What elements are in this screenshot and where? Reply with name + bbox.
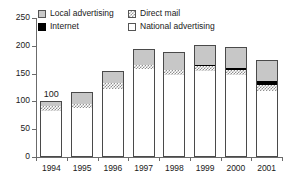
- bar-2000: [225, 18, 247, 157]
- y-axis-tick-label: 250: [16, 13, 30, 22]
- bar-segment-national-advertising: [225, 75, 247, 157]
- y-axis-tick-label: 200: [16, 41, 30, 50]
- x-axis-label-1997: 1997: [128, 163, 159, 173]
- bar-segment-local-advertising: [163, 52, 185, 69]
- bar-segment-internet: [256, 81, 278, 85]
- x-axis-tick: [128, 157, 129, 161]
- x-axis-tick: [282, 157, 283, 161]
- bar-segment-local-advertising: [194, 45, 216, 65]
- bar-segment-local-advertising: [133, 49, 155, 65]
- x-axis-tick: [159, 157, 160, 161]
- legend-item-direct-mail: Direct mail: [128, 9, 180, 18]
- x-axis-label-2000: 2000: [221, 163, 252, 173]
- bar-1994: 100: [40, 18, 62, 157]
- y-axis-tick: [32, 129, 36, 130]
- x-axis-label-1999: 1999: [190, 163, 221, 173]
- y-axis-tick-label: 100: [16, 96, 30, 105]
- bar-2001: [256, 18, 278, 157]
- legend-label-direct-mail: Direct mail: [140, 9, 180, 18]
- bar-segment-direct-mail: [40, 106, 62, 112]
- bar-segment-national-advertising: [163, 75, 185, 157]
- x-axis-label-1995: 1995: [67, 163, 98, 173]
- legend-label-local-advertising: Local advertising: [50, 9, 114, 18]
- bar-segment-local-advertising: [71, 92, 93, 104]
- bar-segment-local-advertising: [256, 60, 278, 81]
- bar-segment-direct-mail: [225, 70, 247, 74]
- bar-value-label: 100: [44, 89, 59, 99]
- bar-segment-internet: [194, 65, 216, 67]
- bar-1995: [71, 18, 93, 157]
- bar-segment-direct-mail: [163, 70, 185, 76]
- x-axis-tick: [36, 157, 37, 161]
- bar-segment-national-advertising: [256, 91, 278, 157]
- bar-segment-direct-mail: [256, 85, 278, 91]
- x-axis-label-1998: 1998: [159, 163, 190, 173]
- bar-segment-local-advertising: [40, 101, 62, 105]
- x-axis-label-1994: 1994: [36, 163, 67, 173]
- y-axis-tick: [32, 101, 36, 102]
- legend-swatch-local-advertising-icon: [38, 10, 46, 18]
- y-axis-tick: [32, 18, 36, 19]
- y-axis-tick-label: 150: [16, 69, 30, 78]
- bar-segment-direct-mail: [71, 104, 93, 108]
- bar-segment-national-advertising: [133, 69, 155, 157]
- x-axis-label-1996: 1996: [98, 163, 129, 173]
- bar-segment-national-advertising: [102, 89, 124, 157]
- x-axis-tick: [221, 157, 222, 161]
- bar-segment-internet: [225, 68, 247, 70]
- x-axis-tick: [251, 157, 252, 161]
- bar-segment-direct-mail: [102, 83, 124, 89]
- bar-segment-national-advertising: [40, 111, 62, 157]
- y-axis-tick-label: 50: [21, 124, 30, 133]
- bar-segment-local-advertising: [102, 71, 124, 83]
- plot-area: 100: [36, 18, 282, 157]
- x-axis-tick: [190, 157, 191, 161]
- bar-segment-direct-mail: [133, 65, 155, 69]
- bar-1997: [133, 18, 155, 157]
- bar-segment-national-advertising: [71, 108, 93, 157]
- bar-1999: [194, 18, 216, 157]
- x-axis-tick: [67, 157, 68, 161]
- x-axis-label-2001: 2001: [251, 163, 282, 173]
- bar-1996: [102, 18, 124, 157]
- bar-segment-local-advertising: [225, 47, 247, 68]
- y-axis-tick: [32, 74, 36, 75]
- y-axis-tick: [32, 46, 36, 47]
- bar-segment-direct-mail: [194, 66, 216, 70]
- y-axis-tick-label: 0: [25, 152, 30, 161]
- stacked-bar-chart: Local advertising Internet Direct mail N…: [0, 0, 289, 183]
- legend-item-local-advertising: Local advertising: [38, 9, 114, 18]
- bar-1998: [163, 18, 185, 157]
- bar-segment-national-advertising: [194, 71, 216, 157]
- legend-swatch-direct-mail-icon: [128, 10, 136, 18]
- x-axis-tick: [98, 157, 99, 161]
